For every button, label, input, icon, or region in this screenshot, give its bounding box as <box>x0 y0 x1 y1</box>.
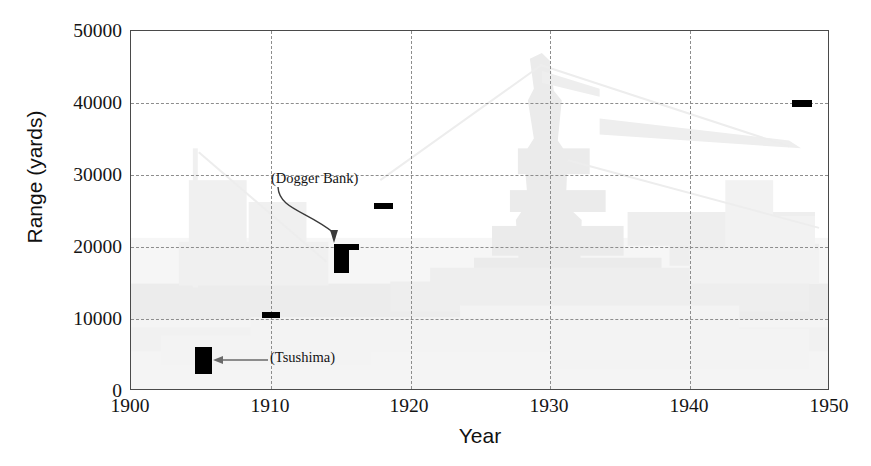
annotation-tsushima-label: (Tsushima) <box>270 350 335 365</box>
gridline-x-1930 <box>550 31 551 389</box>
data-marker-1948[interactable] <box>792 100 812 107</box>
gridline-x-1920 <box>411 31 412 389</box>
annotation-dogger-bank-label: (Dogger Bank) <box>271 171 358 186</box>
gridline-x-1910 <box>271 31 272 389</box>
plot-area: (Dogger Bank) (Tsushima) <box>130 30 829 390</box>
x-tick-label-1910: 1910 <box>225 396 315 416</box>
x-tick-label-1900: 1900 <box>85 396 175 416</box>
x-tick-label-1920: 1920 <box>364 396 454 416</box>
x-axis-title: Year <box>400 424 560 448</box>
chart-figure: Range (yards) Year 50000 40000 30000 200… <box>0 0 871 466</box>
x-tick-label-1930: 1930 <box>504 396 594 416</box>
y-tick-label-20000: 20000 <box>0 237 122 257</box>
x-tick-label-1950: 1950 <box>784 396 871 416</box>
gridline-y-10000 <box>131 319 828 320</box>
gridline-y-40000 <box>131 103 828 104</box>
battleship-watermark-image <box>131 31 828 389</box>
annotation-dogger-bank-arrow-icon <box>271 181 371 251</box>
x-tick-label-1940: 1940 <box>644 396 734 416</box>
data-marker-dogger-bank-1915-block[interactable] <box>334 244 349 273</box>
gridline-y-20000 <box>131 247 828 248</box>
data-marker-1918[interactable] <box>374 203 393 209</box>
gridline-x-1940 <box>690 31 691 389</box>
data-marker-1910[interactable] <box>262 312 280 318</box>
annotation-tsushima-arrow-icon <box>212 352 270 368</box>
gridline-y-30000 <box>131 175 828 176</box>
data-marker-tsushima-1905[interactable] <box>195 347 212 374</box>
y-tick-label-30000: 30000 <box>0 165 122 185</box>
y-tick-label-40000: 40000 <box>0 93 122 113</box>
y-tick-label-50000: 50000 <box>0 21 122 41</box>
y-tick-label-10000: 10000 <box>0 309 122 329</box>
